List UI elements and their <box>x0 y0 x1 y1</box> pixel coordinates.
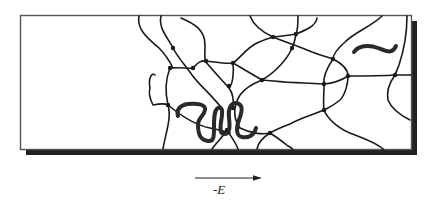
field-label: -E <box>213 182 225 198</box>
field-arrow <box>195 175 262 180</box>
arrowhead-icon <box>253 175 262 180</box>
gel-diagram <box>0 0 432 207</box>
